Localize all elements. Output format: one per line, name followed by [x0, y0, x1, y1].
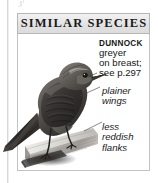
dunnock-illustration [3, 34, 108, 171]
page-canvas: SIMILAR SPECIES [0, 0, 158, 183]
callout-line: flanks [102, 143, 133, 153]
description-line-page-reference: see p.297 [99, 68, 142, 78]
scan-artifact [18, 6, 21, 7]
callout-line: wings [102, 96, 131, 106]
callout-plainer-wings: plainer wings [102, 86, 131, 107]
scan-artifact [23, 0, 24, 3]
panel-header: SIMILAR SPECIES [17, 13, 150, 34]
species-description: greyer on breast; see p.297 [99, 48, 142, 78]
panel-body: DUNNOCK greyer on breast; see p.297 plai… [17, 34, 150, 171]
panel-title: SIMILAR SPECIES [20, 17, 148, 30]
label-column: DUNNOCK greyer on breast; see p.297 plai… [99, 39, 151, 171]
callout-less-reddish-flanks: less reddish flanks [102, 122, 133, 153]
similar-species-panel: SIMILAR SPECIES [17, 13, 150, 171]
